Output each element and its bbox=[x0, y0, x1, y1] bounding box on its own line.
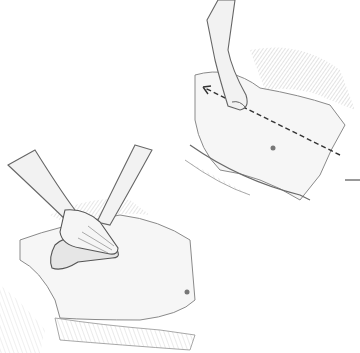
top-right-panel bbox=[185, 0, 360, 200]
navel bbox=[185, 290, 190, 295]
bottom-left-panel bbox=[0, 145, 195, 353]
torso bbox=[20, 215, 195, 320]
sketch-svg bbox=[0, 0, 360, 353]
navel bbox=[271, 146, 276, 151]
illustration bbox=[0, 0, 360, 353]
